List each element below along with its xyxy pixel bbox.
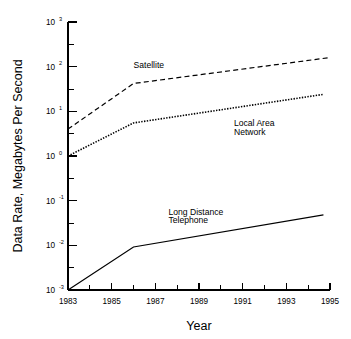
y-tick-exponent: 2 [59, 60, 62, 66]
series-label: Network [234, 127, 266, 137]
x-tick-label: 1985 [103, 297, 122, 306]
y-tick-label: 10-1 [46, 194, 64, 206]
x-tick-label: 1987 [146, 297, 165, 306]
y-tick-label: 102 [46, 60, 62, 72]
series-line-long-distance-telephone [68, 215, 323, 290]
chart-series [68, 58, 330, 290]
y-axis-tick-labels: 10310210110010-110-210-3 [46, 16, 64, 296]
y-tick-exponent: -1 [59, 194, 64, 200]
x-tick-label: 1983 [59, 297, 78, 306]
y-tick-label: 10-2 [46, 239, 64, 251]
y-tick-mantissa: 10 [46, 197, 56, 206]
x-tick-label: 1995 [321, 297, 340, 306]
y-tick-exponent: -2 [59, 239, 64, 245]
y-tick-mantissa: 10 [46, 107, 56, 116]
y-tick-exponent: -3 [59, 284, 64, 290]
x-tick-label: 1991 [234, 297, 253, 306]
y-tick-label: 103 [46, 16, 62, 28]
x-tick-label: 1989 [190, 297, 209, 306]
series-label: Telephone [168, 215, 208, 225]
y-axis-title: Data Rate, Megabytes Per Second [11, 59, 25, 252]
y-tick-exponent: 1 [59, 105, 62, 111]
series-label: Satellite [134, 60, 165, 70]
x-axis-title: Year [186, 319, 211, 333]
y-tick-label: 10-3 [46, 284, 64, 296]
series-line-local-area-network [68, 94, 323, 156]
y-tick-mantissa: 10 [46, 152, 56, 161]
y-tick-mantissa: 10 [46, 63, 56, 72]
y-tick-label: 101 [46, 105, 62, 117]
series-annotations: SatelliteLocal AreaNetworkLong DistanceT… [134, 60, 275, 225]
x-axis-tick-labels: 1983198519871989199119931995 [59, 297, 340, 306]
y-tick-exponent: 3 [59, 16, 62, 22]
y-tick-mantissa: 10 [46, 286, 56, 295]
line-chart: 10310210110010-110-210-3 198319851987198… [0, 0, 351, 339]
y-tick-mantissa: 10 [46, 241, 56, 250]
x-axis-ticks [68, 283, 330, 290]
x-tick-label: 1993 [277, 297, 296, 306]
chart-figure: 10310210110010-110-210-3 198319851987198… [0, 0, 351, 339]
y-tick-exponent: 0 [59, 150, 62, 156]
y-tick-label: 100 [46, 150, 62, 162]
y-tick-mantissa: 10 [46, 18, 56, 27]
series-line-satellite [68, 58, 330, 130]
